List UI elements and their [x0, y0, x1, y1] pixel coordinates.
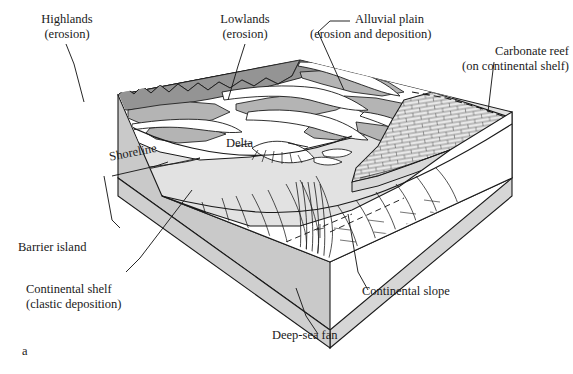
- label-barrier-island-line1: Barrier island: [18, 240, 86, 255]
- label-highlands-line1: Highlands: [12, 12, 122, 27]
- figure-canvas: Highlands (erosion) Lowlands (erosion) A…: [0, 0, 573, 374]
- label-carbonate-reef: Carbonate reef (on continental shelf): [403, 44, 569, 73]
- label-deep-sea-fan: Deep-sea fan: [272, 328, 338, 343]
- label-barrier-island: Barrier island: [18, 240, 86, 255]
- label-carbonate-reef-line2: (on continental shelf): [403, 59, 569, 74]
- label-continental-slope-line1: Continental slope: [362, 284, 450, 299]
- figure-part-marker: a: [22, 344, 28, 359]
- label-delta: Delta: [226, 136, 253, 151]
- label-continental-shelf: Continental shelf (clastic deposition): [26, 282, 121, 311]
- label-carbonate-reef-line1: Carbonate reef: [403, 44, 569, 59]
- label-delta-line1: Delta: [226, 136, 253, 151]
- label-alluvial-plain: Alluvial plain (erosion and deposition): [310, 12, 432, 41]
- label-deep-sea-fan-line1: Deep-sea fan: [272, 328, 338, 343]
- label-lowlands: Lowlands (erosion): [190, 12, 300, 41]
- label-highlands: Highlands (erosion): [12, 12, 122, 41]
- label-alluvial-plain-line2: (erosion and deposition): [310, 27, 432, 42]
- label-lowlands-line2: (erosion): [190, 27, 300, 42]
- label-continental-shelf-line1: Continental shelf: [26, 282, 121, 297]
- label-lowlands-line1: Lowlands: [190, 12, 300, 27]
- label-continental-shelf-line2: (clastic deposition): [26, 297, 121, 312]
- label-highlands-line2: (erosion): [12, 27, 122, 42]
- label-alluvial-plain-line1: Alluvial plain: [310, 12, 432, 27]
- label-continental-slope: Continental slope: [362, 284, 450, 299]
- leader-highlands: [66, 44, 84, 102]
